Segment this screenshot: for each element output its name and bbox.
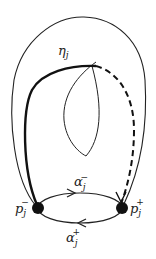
label-alpha-minus: αj− bbox=[74, 172, 88, 192]
point-p-plus bbox=[116, 202, 128, 214]
point-p-minus bbox=[32, 202, 44, 214]
dashed-curve bbox=[96, 66, 134, 204]
label-p-plus: pj+ bbox=[130, 197, 144, 218]
label-p-minus: pj− bbox=[15, 197, 29, 218]
diagram-canvas: ηj αj− αj+ pj− pj+ bbox=[0, 0, 156, 259]
label-alpha-plus: αj+ bbox=[66, 227, 80, 248]
alpha-ellipse bbox=[38, 193, 122, 223]
inner-curve bbox=[64, 62, 99, 156]
label-eta: ηj bbox=[58, 43, 69, 60]
